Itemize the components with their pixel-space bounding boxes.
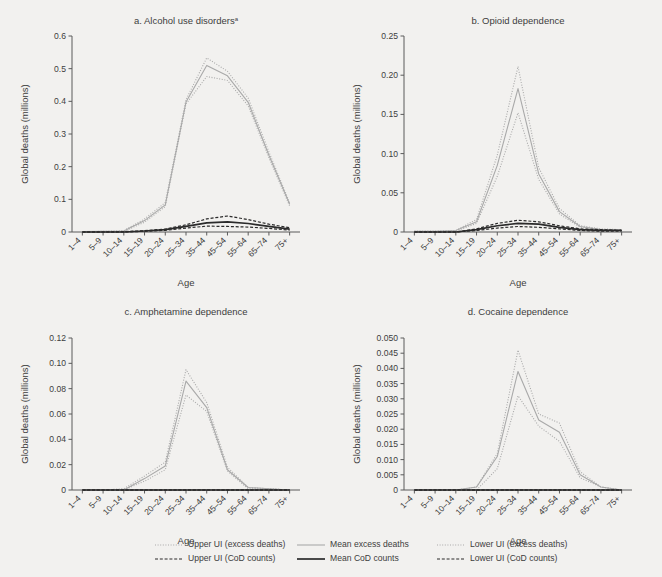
panel-title: d. Cocaine dependence bbox=[468, 306, 568, 317]
y-axis-title: Global deaths (millions) bbox=[351, 364, 362, 463]
y-tick-label: 0 bbox=[61, 227, 66, 237]
y-tick-label: 0.045 bbox=[376, 348, 398, 358]
y-tick-label: 0 bbox=[393, 227, 398, 237]
y-tick-label: 0.02 bbox=[49, 460, 66, 470]
y-tick-label: 0.10 bbox=[49, 358, 66, 368]
y-tick-label: 0 bbox=[393, 485, 398, 495]
y-axis-title: Global deaths (millions) bbox=[351, 84, 362, 183]
y-tick-label: 0.020 bbox=[376, 424, 398, 434]
panel-title: c. Amphetamine dependence bbox=[124, 306, 247, 317]
y-axis-title: Global deaths (millions) bbox=[19, 364, 30, 463]
panel-title: a. Alcohol use disordersa bbox=[134, 15, 239, 26]
y-tick-label: 0.010 bbox=[376, 455, 398, 465]
y-axis-title: Global deaths (millions) bbox=[19, 84, 30, 183]
y-tick-label: 0.005 bbox=[376, 470, 398, 480]
y-tick-label: 0.10 bbox=[381, 149, 398, 159]
y-tick-label: 0.5 bbox=[54, 64, 66, 74]
y-tick-label: 0.3 bbox=[54, 129, 66, 139]
y-tick-label: 0.1 bbox=[54, 194, 66, 204]
x-axis-title: Age bbox=[178, 277, 195, 288]
y-tick-label: 0.050 bbox=[376, 333, 398, 343]
y-tick-label: 0.025 bbox=[376, 409, 398, 419]
legend-label: Lower UI (CoD counts) bbox=[470, 553, 558, 563]
multi-panel-line-chart-figure: a. Alcohol use disordersa00.10.20.30.40.… bbox=[0, 0, 662, 577]
y-tick-label: 0.05 bbox=[381, 188, 398, 198]
legend-label: Mean CoD counts bbox=[330, 553, 399, 563]
y-tick-label: 0.25 bbox=[381, 31, 398, 41]
legend-label: Lower UI (excess deaths) bbox=[470, 539, 568, 549]
legend-label: Mean excess deaths bbox=[330, 539, 409, 549]
y-tick-label: 0.6 bbox=[54, 31, 66, 41]
panel-title: b. Opioid dependence bbox=[472, 15, 565, 26]
y-tick-label: 0.040 bbox=[376, 363, 398, 373]
x-axis-title: Age bbox=[510, 277, 527, 288]
y-tick-label: 0.015 bbox=[376, 439, 398, 449]
legend-label: Upper UI (excess deaths) bbox=[188, 539, 286, 549]
y-tick-label: 0.035 bbox=[376, 379, 398, 389]
y-tick-label: 0.06 bbox=[49, 409, 66, 419]
y-tick-label: 0.08 bbox=[49, 384, 66, 394]
y-tick-label: 0.12 bbox=[49, 333, 66, 343]
y-tick-label: 0.2 bbox=[54, 162, 66, 172]
y-tick-label: 0 bbox=[61, 485, 66, 495]
y-tick-label: 0.030 bbox=[376, 394, 398, 404]
y-tick-label: 0.04 bbox=[49, 434, 66, 444]
y-tick-label: 0.20 bbox=[381, 70, 398, 80]
y-tick-label: 0.4 bbox=[54, 96, 66, 106]
legend-label: Upper UI (CoD counts) bbox=[188, 553, 276, 563]
y-tick-label: 0.15 bbox=[381, 109, 398, 119]
